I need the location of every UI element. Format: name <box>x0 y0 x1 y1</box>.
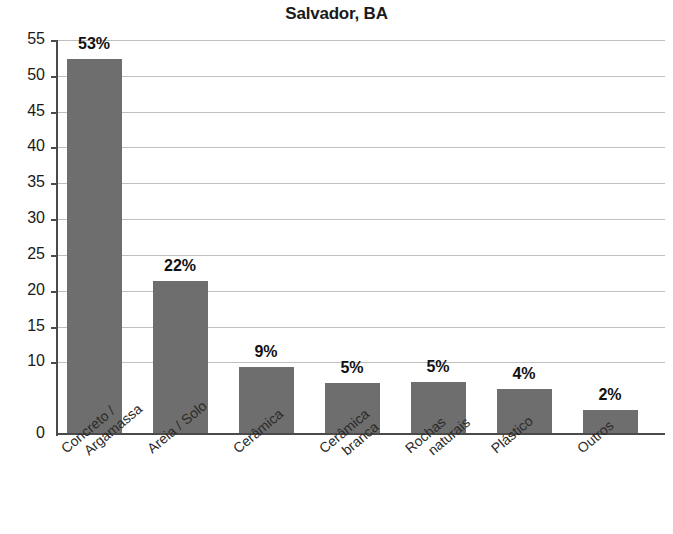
y-axis-label: 40 <box>5 138 45 154</box>
y-axis-label: 10 <box>5 353 45 369</box>
gridline <box>57 255 665 256</box>
gridline <box>57 219 665 220</box>
bar-value-label: 53% <box>54 35 134 53</box>
bar-chart: Salvador, BA 01015202530354045505553%Con… <box>0 0 673 534</box>
bar[interactable] <box>67 59 122 434</box>
bar-value-label: 22% <box>140 257 220 275</box>
gridline <box>57 40 665 41</box>
bar-value-label: 9% <box>226 343 306 361</box>
bar-value-label: 2% <box>570 386 650 404</box>
bar-value-label: 4% <box>484 365 564 383</box>
chart-title: Salvador, BA <box>0 4 673 24</box>
gridline <box>57 76 665 77</box>
y-axis-label: 30 <box>5 210 45 226</box>
gridline <box>57 112 665 113</box>
y-axis-label: 35 <box>5 174 45 190</box>
gridline <box>57 291 665 292</box>
gridline <box>57 147 665 148</box>
y-axis-label: 15 <box>5 318 45 334</box>
y-axis-line <box>56 40 58 436</box>
y-axis-label: 55 <box>5 31 45 47</box>
gridline <box>57 327 665 328</box>
y-axis-label: 45 <box>5 103 45 119</box>
y-axis-label: 25 <box>5 246 45 262</box>
bar-value-label: 5% <box>398 358 478 376</box>
y-axis-label: 0 <box>5 425 45 441</box>
bar-value-label: 5% <box>312 359 392 377</box>
y-axis-label: 20 <box>5 282 45 298</box>
y-axis-label: 50 <box>5 67 45 83</box>
gridline <box>57 183 665 184</box>
